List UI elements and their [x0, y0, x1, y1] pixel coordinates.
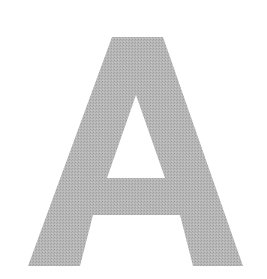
letter-a-shape — [28, 37, 243, 266]
glyph-canvas: A — [0, 0, 267, 279]
letter-a-icon — [0, 0, 267, 279]
